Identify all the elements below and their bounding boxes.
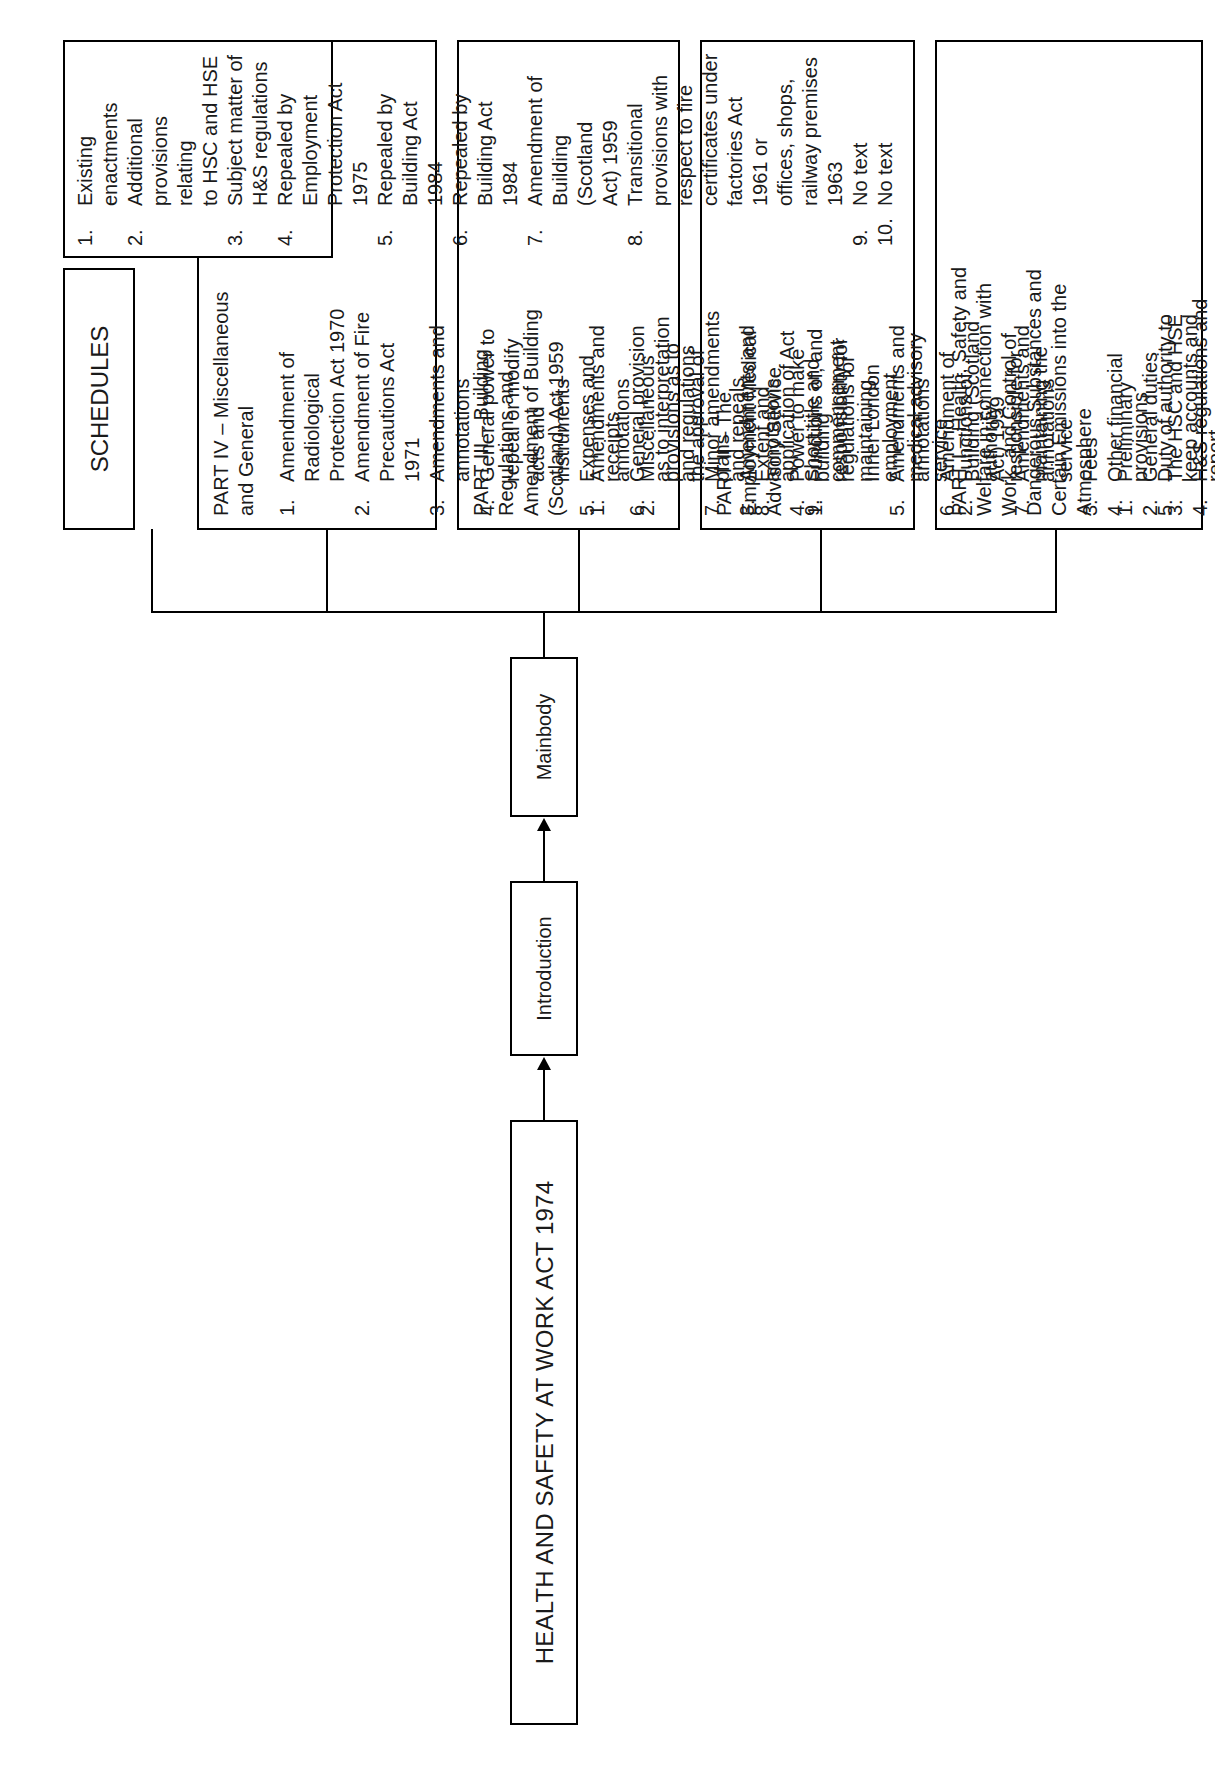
list-item: 3.Subject matter of H&S regulations: [223, 52, 273, 246]
connector-bus-to-schedules: [151, 529, 153, 613]
list-item-number: 2.: [350, 499, 375, 516]
list-item: 8.Transitional provisions with respect t…: [623, 52, 848, 246]
list-item: 9.No text: [848, 52, 873, 246]
list-item-text: Subject matter of H&S regulations: [223, 52, 273, 206]
list-item-number: 3.: [223, 229, 248, 246]
mainbody-title: Mainbody: [532, 694, 557, 781]
diagram-canvas: HEALTH AND SAFETY AT WORK ACT 1974 Intro…: [0, 0, 1215, 1783]
connector-bus-to-part3: [578, 529, 580, 613]
connector-root-to-introduction: [543, 1068, 545, 1120]
list-item-text: Transitional provisions with respect to …: [623, 52, 848, 206]
list-item: 5.Duty of authority to keep accounts and…: [1153, 54, 1215, 516]
list-item: 2.Additional provisions relating to HSC …: [123, 52, 223, 246]
list-item-text: Repealed by Building Act 1984: [373, 52, 448, 206]
list-item-text: Fees: [1078, 54, 1103, 482]
connector-bus-to-part4: [326, 529, 328, 613]
list-item-number: 6.: [935, 499, 960, 516]
list-item-text: No text: [873, 52, 898, 206]
list-item: 4.Repealed by Employment Protection Act …: [273, 52, 373, 246]
connector-bus-to-part2: [820, 529, 822, 613]
list-item-number: 7.: [1010, 499, 1035, 516]
list-item-number: 5.: [575, 499, 600, 516]
list-item-text: Existing enactments: [73, 52, 123, 206]
list-item: 6.Repealed by Building Act 1984: [448, 52, 523, 246]
list-item-number: 9.: [848, 229, 873, 246]
arrowhead-introduction: [537, 1057, 551, 1070]
list-item: 10.No text: [873, 52, 898, 246]
schedules-item-list: 1.Existing enactments2.Additional provis…: [73, 52, 898, 246]
node-schedules-label[interactable]: SCHEDULES: [63, 268, 135, 530]
list-item-number: 3.: [425, 499, 450, 516]
list-item-text: Amendment of Building (Scotland Act) 195…: [523, 52, 623, 206]
list-item-number: 8.: [750, 499, 775, 516]
list-item-text: Other financial provisions: [1103, 54, 1153, 482]
node-schedules-list[interactable]: 1.Existing enactments2.Additional provis…: [63, 40, 333, 258]
list-item-number: 4.: [273, 229, 298, 246]
list-item-number: 6.: [625, 499, 650, 516]
list-item: 4.Other financial provisions: [1103, 54, 1153, 516]
node-mainbody[interactable]: Mainbody: [510, 657, 578, 817]
connector-bus-to-part1: [1055, 529, 1057, 613]
list-item-number: 8.: [623, 229, 648, 246]
list-item: 7.Amendments and annotations: [1010, 54, 1060, 516]
arrowhead-mainbody: [537, 818, 551, 831]
list-item-number: 7.: [700, 499, 725, 516]
list-item-number: 6.: [448, 229, 473, 246]
list-item-number: 3.: [1078, 499, 1103, 516]
root-title: HEALTH AND SAFETY AT WORK ACT 1974: [532, 1181, 557, 1664]
list-item-number: 5.: [373, 229, 398, 246]
list-item: 3.Fees: [1078, 54, 1103, 516]
list-item-number: 4.: [1103, 499, 1128, 516]
list-item-number: 1.: [275, 499, 300, 516]
list-item: 6.Amendment of Building (Scotland Act) 1…: [935, 54, 1010, 516]
list-item-number: 7.: [523, 229, 548, 246]
list-item-number: 2.: [123, 229, 148, 246]
connector-parts-bus: [151, 611, 1057, 613]
connector-introduction-to-mainbody: [543, 829, 545, 881]
list-item-text: Amendment of Building (Scotland Act) 195…: [935, 54, 1010, 482]
list-item-text: Duty of authority to keep accounts and r…: [1153, 54, 1215, 482]
connector-mainbody-stub: [543, 611, 545, 657]
node-root-act[interactable]: HEALTH AND SAFETY AT WORK ACT 1974: [510, 1120, 578, 1725]
list-item-number: 4.: [475, 499, 500, 516]
list-item-text: No text: [848, 52, 873, 206]
list-item-text: Amendments and annotations: [1010, 54, 1060, 482]
list-item-number: 5.: [885, 499, 910, 516]
introduction-title: Introduction: [532, 916, 557, 1021]
list-item-text: Repealed by Building Act 1984: [448, 52, 523, 206]
list-item-number: 5.: [1153, 499, 1178, 516]
list-item: 5.Repealed by Building Act 1984: [373, 52, 448, 246]
list-item: 1.Existing enactments: [73, 52, 123, 246]
list-item-text: Additional provisions relating to HSC an…: [123, 52, 223, 206]
list-item-number: 9.: [800, 499, 825, 516]
schedules-title: SCHEDULES: [87, 326, 112, 473]
list-item-number: 1.: [73, 229, 98, 246]
list-item-number: 10.: [873, 218, 898, 246]
list-item: 7.Amendment of Building (Scotland Act) 1…: [523, 52, 623, 246]
list-item-text: Repealed by Employment Protection Act 19…: [273, 52, 373, 206]
node-introduction[interactable]: Introduction: [510, 881, 578, 1056]
